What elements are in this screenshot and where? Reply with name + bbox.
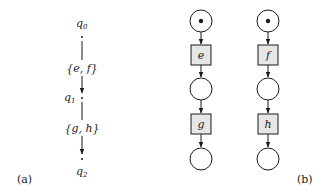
place-final xyxy=(257,148,279,170)
net-column-1: e g xyxy=(190,10,212,170)
net-column-2: f h xyxy=(257,10,279,170)
panel-a-caption: (a) xyxy=(17,173,32,186)
state-q2-label: q2 xyxy=(76,165,88,179)
state-q0-dot xyxy=(81,36,83,38)
edge-gh-label: {g, h} xyxy=(64,122,99,135)
transition-h-label: h xyxy=(264,118,271,131)
state-q2-dot xyxy=(81,158,83,160)
panel-b-caption: (b) xyxy=(297,173,313,186)
place-final xyxy=(190,148,212,170)
panel-a-state-graph: q0 {e, f} q1 {g, h} q2 (a) xyxy=(17,17,100,186)
state-q0-label: q0 xyxy=(76,17,88,31)
diagram-canvas: q0 {e, f} q1 {g, h} q2 (a) e g xyxy=(0,0,332,193)
token-icon xyxy=(266,19,270,23)
transition-e-label: e xyxy=(198,49,205,62)
token-icon xyxy=(199,19,203,23)
edge-ef-label: {e, f} xyxy=(66,62,98,75)
state-q1-label: q1 xyxy=(64,91,76,105)
place-middle xyxy=(257,78,279,100)
panel-b-petri-net: e g f h (b) xyxy=(190,10,313,186)
state-q1-dot xyxy=(81,97,83,99)
place-middle xyxy=(190,78,212,100)
transition-g-label: g xyxy=(197,118,204,131)
